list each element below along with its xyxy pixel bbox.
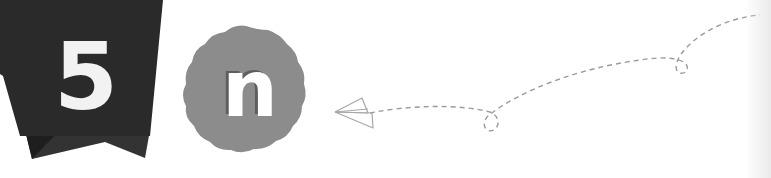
paper-plane-icon xyxy=(335,98,373,128)
edge-shadow xyxy=(745,0,771,178)
dashed-trail xyxy=(370,15,760,131)
flight-path xyxy=(0,0,771,178)
illustration: 5 n n xyxy=(0,0,771,178)
